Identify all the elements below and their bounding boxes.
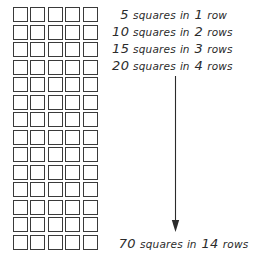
grid-square [83, 7, 98, 22]
label-count: 20 [112, 57, 129, 74]
grid-square [13, 217, 28, 232]
grid-square [30, 7, 45, 22]
grid-square [83, 25, 98, 40]
grid-square [48, 200, 63, 215]
grid-row [13, 25, 110, 43]
grid-square [48, 77, 63, 92]
label-count: 5 [112, 6, 129, 23]
grid-square [30, 42, 45, 57]
grid-square [30, 182, 45, 197]
grid-row [13, 165, 110, 183]
grid-square [30, 200, 45, 215]
grid-square [30, 235, 45, 250]
square-grid [13, 7, 110, 252]
grid-square [30, 25, 45, 40]
grid-square [65, 25, 80, 40]
grid-square [83, 95, 98, 110]
grid-row [13, 60, 110, 78]
grid-square [65, 130, 80, 145]
grid-row [13, 95, 110, 113]
grid-square [48, 235, 63, 250]
grid-square [13, 147, 28, 162]
label-count: 15 [112, 40, 129, 57]
grid-row [13, 130, 110, 148]
grid-square [83, 165, 98, 180]
label-count: 10 [112, 23, 129, 40]
total-noun: squares [140, 236, 183, 253]
grid-square [48, 147, 63, 162]
label-list: 5squaresin1row10squaresin2rows15squaresi… [112, 6, 255, 74]
grid-square [65, 165, 80, 180]
grid-square [83, 42, 98, 57]
total-label: 70 squares in 14 rows [112, 235, 248, 252]
label-preposition: in [180, 7, 190, 24]
grid-square [48, 95, 63, 110]
grid-square [30, 147, 45, 162]
grid-square [30, 95, 45, 110]
grid-row [13, 42, 110, 60]
label-rows-count: 2 [194, 23, 203, 40]
total-preposition: in [187, 236, 197, 253]
label-noun: squares [133, 41, 176, 58]
total-rows-noun: rows [223, 236, 249, 253]
label-line: 15squaresin3rows [112, 40, 255, 57]
grid-square [48, 42, 63, 57]
grid-square [13, 77, 28, 92]
grid-square [48, 25, 63, 40]
grid-square [65, 217, 80, 232]
grid-square [13, 130, 28, 145]
grid-square [48, 60, 63, 75]
label-preposition: in [180, 41, 190, 58]
label-rows-count: 1 [194, 6, 203, 23]
grid-square [65, 182, 80, 197]
grid-square [65, 60, 80, 75]
grid-square [48, 130, 63, 145]
grid-square [83, 77, 98, 92]
grid-square [13, 165, 28, 180]
grid-square [13, 7, 28, 22]
grid-square [13, 200, 28, 215]
grid-row [13, 200, 110, 218]
grid-square [65, 147, 80, 162]
grid-square [65, 112, 80, 127]
grid-square [83, 200, 98, 215]
grid-square [83, 112, 98, 127]
grid-row [13, 217, 110, 235]
grid-square [83, 182, 98, 197]
grid-square [30, 77, 45, 92]
grid-square [30, 112, 45, 127]
grid-square [13, 182, 28, 197]
grid-square [83, 60, 98, 75]
grid-square [30, 130, 45, 145]
grid-square [65, 95, 80, 110]
grid-square [30, 217, 45, 232]
grid-square [83, 217, 98, 232]
grid-square [48, 217, 63, 232]
label-noun: squares [133, 24, 176, 41]
grid-square [13, 235, 28, 250]
grid-square [30, 60, 45, 75]
grid-square [65, 235, 80, 250]
grid-square [13, 60, 28, 75]
grid-row [13, 147, 110, 165]
grid-square [48, 182, 63, 197]
grid-square [83, 147, 98, 162]
label-line: 5squaresin1row [112, 6, 255, 23]
grid-row [13, 112, 110, 130]
grid-square [65, 42, 80, 57]
label-noun: squares [133, 58, 176, 75]
grid-row [13, 235, 110, 253]
label-rows-noun: rows [207, 41, 233, 58]
grid-square [65, 200, 80, 215]
grid-square [13, 25, 28, 40]
total-rows-count: 14 [201, 235, 218, 252]
label-rows-count: 4 [194, 57, 203, 74]
label-line: 20squaresin4rows [112, 57, 255, 74]
label-preposition: in [180, 58, 190, 75]
grid-row [13, 77, 110, 95]
grid-square [13, 112, 28, 127]
grid-square [83, 235, 98, 250]
skip-counting-figure: 5squaresin1row10squaresin2rows15squaresi… [0, 0, 255, 259]
grid-square [13, 95, 28, 110]
total-count: 70 [112, 235, 136, 252]
